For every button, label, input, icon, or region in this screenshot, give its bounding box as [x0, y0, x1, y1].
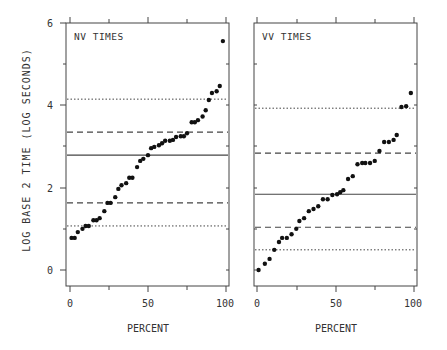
- data-point: [285, 236, 289, 240]
- data-point: [204, 108, 208, 112]
- data-point: [210, 91, 214, 95]
- data-point: [395, 133, 399, 137]
- data-point: [102, 209, 106, 213]
- data-point: [391, 138, 395, 142]
- data-point: [218, 84, 222, 88]
- data-point: [355, 162, 359, 166]
- panel-vv-x-ticks: [257, 17, 414, 292]
- data-point: [272, 248, 276, 252]
- x-axis-label-left: PERCENT: [127, 323, 169, 334]
- data-point: [97, 216, 101, 220]
- data-point: [263, 262, 267, 266]
- data-point: [277, 240, 281, 244]
- data-point: [387, 140, 391, 144]
- xtick-label-100-left: 100: [216, 298, 234, 309]
- data-point: [267, 257, 271, 261]
- ytick-label-4: 4: [47, 100, 53, 111]
- panel-vv-frame: [254, 23, 417, 286]
- panel-nv-y-ticks: [60, 23, 229, 270]
- data-point: [185, 131, 189, 135]
- x-axis-label-right: PERCENT: [315, 323, 357, 334]
- data-point: [399, 105, 403, 109]
- data-point: [116, 187, 120, 191]
- data-point: [200, 114, 204, 118]
- panel-vv-title: VV TIMES: [262, 31, 312, 42]
- data-point: [87, 224, 91, 228]
- data-point: [409, 91, 413, 95]
- xtick-label-0-left: 0: [67, 298, 73, 309]
- data-point: [146, 153, 150, 157]
- panel-vv: VV TIMES 0 50: [254, 17, 422, 334]
- data-point: [341, 188, 345, 192]
- data-point: [368, 161, 372, 165]
- data-point: [404, 104, 408, 108]
- data-point: [214, 89, 218, 93]
- data-point: [135, 165, 139, 169]
- y-axis-label: LOG BASE 2 TIME (LOG SECONDS): [21, 48, 32, 252]
- data-point: [373, 159, 377, 163]
- data-point: [351, 174, 355, 178]
- data-point: [221, 39, 225, 43]
- panel-nv: NV TIMES: [47, 17, 234, 334]
- data-point: [163, 139, 167, 143]
- xtick-label-100-right: 100: [404, 298, 422, 309]
- data-point: [152, 145, 156, 149]
- data-point: [108, 201, 112, 205]
- data-point: [346, 177, 350, 181]
- ytick-label-0: 0: [47, 265, 53, 276]
- data-point: [130, 176, 134, 180]
- data-point: [330, 193, 334, 197]
- panel-vv-reference-lines: [255, 108, 416, 250]
- data-point: [307, 209, 311, 213]
- panel-nv-title: NV TIMES: [74, 31, 124, 42]
- data-point: [302, 216, 306, 220]
- ytick-label-2: 2: [47, 183, 53, 194]
- data-point: [311, 207, 315, 211]
- panel-nv-data-points: [69, 39, 225, 240]
- data-point: [377, 149, 381, 153]
- data-point: [76, 230, 80, 234]
- ytick-label-6: 6: [47, 18, 53, 29]
- data-point: [280, 236, 284, 240]
- data-point: [119, 183, 123, 187]
- data-point: [316, 204, 320, 208]
- data-point: [325, 197, 329, 201]
- panel-vv-y-ticks: [254, 64, 417, 270]
- xtick-label-50-left: 50: [142, 298, 154, 309]
- data-point: [297, 219, 301, 223]
- data-point: [321, 197, 325, 201]
- data-point: [124, 181, 128, 185]
- data-point: [113, 195, 117, 199]
- data-point: [196, 118, 200, 122]
- data-point: [207, 98, 211, 102]
- xtick-label-50-right: 50: [330, 298, 342, 309]
- xtick-label-0-right: 0: [254, 298, 260, 309]
- data-point: [72, 236, 76, 240]
- data-point: [289, 232, 293, 236]
- data-point: [174, 135, 178, 139]
- chart-canvas: NV TIMES: [0, 0, 447, 350]
- data-point: [141, 157, 145, 161]
- data-point: [363, 161, 367, 165]
- data-point: [256, 268, 260, 272]
- data-point: [382, 140, 386, 144]
- panel-vv-data-points: [256, 91, 413, 272]
- data-point: [294, 227, 298, 231]
